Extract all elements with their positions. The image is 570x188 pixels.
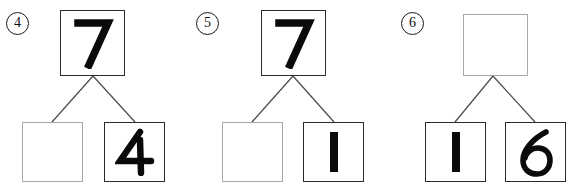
digit-glyph-1 (445, 129, 467, 175)
item-number-badge: 6 (401, 12, 424, 35)
whole-box[interactable] (463, 14, 528, 76)
digit-glyph-4 (115, 128, 155, 176)
whole-box[interactable] (261, 10, 326, 76)
number-bond-group-6: 6 (395, 0, 570, 188)
digit-glyph-7 (72, 17, 114, 69)
part-box-right[interactable] (303, 122, 364, 182)
part-box-right[interactable] (505, 122, 566, 182)
number-bond-worksheet: 4 5 (0, 0, 570, 188)
part-box-left[interactable] (222, 122, 283, 182)
digit-glyph-7 (273, 17, 315, 69)
digit-glyph-6 (516, 127, 556, 177)
whole-box[interactable] (60, 10, 125, 76)
digit-glyph-1 (323, 129, 345, 175)
item-number-badge: 5 (196, 12, 219, 35)
item-number-badge: 4 (6, 12, 29, 35)
number-bond-group-5: 5 (190, 0, 380, 188)
part-box-right[interactable] (104, 122, 165, 182)
part-box-left[interactable] (22, 122, 83, 182)
part-box-left[interactable] (425, 122, 486, 182)
number-bond-group-4: 4 (0, 0, 190, 188)
